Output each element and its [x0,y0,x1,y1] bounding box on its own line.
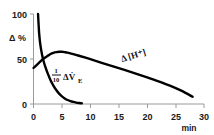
chart-plot-area: 100 50 0 Δ % 0 5 10 15 20 25 30 min Δ [H… [0,0,214,135]
annotation-fraction-denominator: 10 [53,76,60,83]
chart-figure: 100 50 0 Δ % 0 5 10 15 20 25 30 min Δ [H… [0,0,214,135]
x-tick-label-30: 30 [199,112,209,122]
y-axis-title: Δ % [9,33,26,43]
annotation-fraction-numerator: 1 [54,67,57,74]
y-tick-label-0: 0 [22,100,27,110]
x-axis-unit-label: min [181,123,196,133]
x-tick-label-25: 25 [171,112,181,122]
y-tick-label-100: 100 [12,10,27,20]
annotation-subscript-e: E [78,77,82,84]
x-tick-label-15: 15 [114,112,124,122]
x-tick-label-10: 10 [85,112,95,122]
x-tick-label-0: 0 [31,112,36,122]
y-tick-label-50: 50 [17,55,27,65]
annotation-delta-v-dot: ΔV̇ [63,71,76,81]
x-tick-label-5: 5 [59,112,64,122]
x-tick-label-20: 20 [142,112,152,122]
